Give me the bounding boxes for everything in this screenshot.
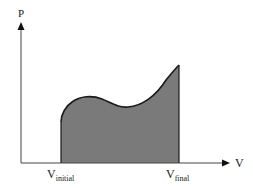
y-axis-arrow-icon [18, 22, 25, 30]
v-initial-subscript: initial [56, 174, 75, 183]
y-axis-label: P [18, 7, 24, 19]
x-axis-label: V [235, 156, 244, 170]
v-initial-label: Vinitial [47, 167, 75, 183]
pv-diagram: P V Vinitial Vfinal [0, 0, 253, 188]
work-area [61, 65, 179, 163]
v-final-label: Vfinal [166, 167, 190, 183]
x-axis-arrow-icon [222, 160, 230, 167]
v-final-subscript: final [175, 174, 190, 183]
